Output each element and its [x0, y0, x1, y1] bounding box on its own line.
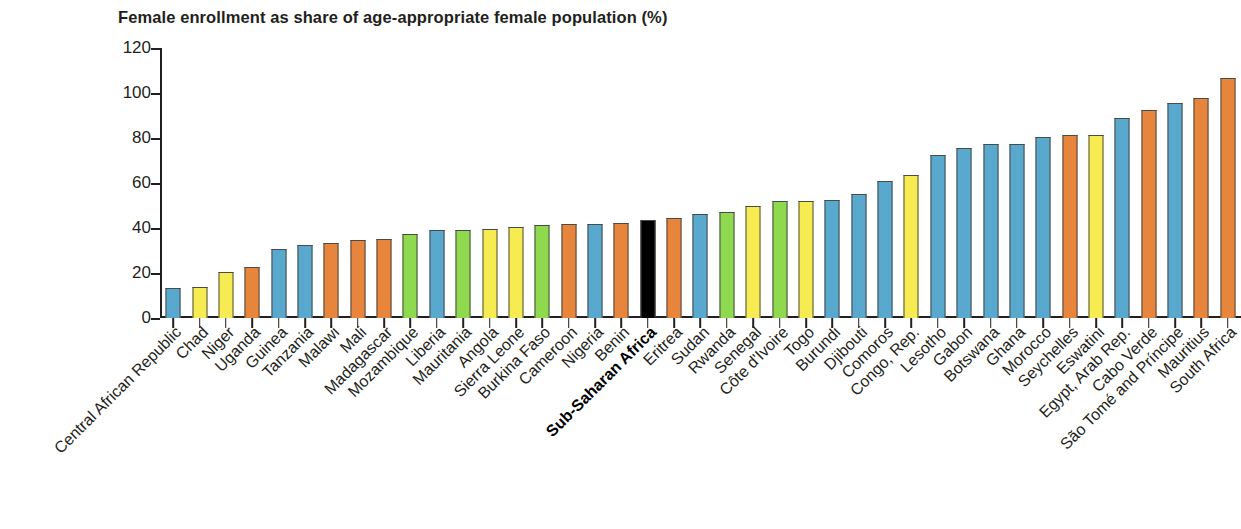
bar-slot — [345, 48, 371, 318]
bar-slot — [424, 48, 450, 318]
bar[interactable] — [825, 200, 840, 318]
bar-slot — [292, 48, 318, 318]
bar[interactable] — [957, 148, 972, 318]
bar-slot — [555, 48, 581, 318]
bar-slot — [529, 48, 555, 318]
y-axis-tick-label: 60 — [132, 173, 151, 193]
bar-slot — [186, 48, 212, 318]
bar-slot — [265, 48, 291, 318]
y-axis-tick — [151, 228, 160, 230]
bar[interactable] — [324, 243, 339, 318]
bar-slot — [213, 48, 239, 318]
bar[interactable] — [851, 194, 866, 318]
bar[interactable] — [746, 206, 761, 319]
bar[interactable] — [192, 287, 207, 319]
bar-slot — [951, 48, 977, 318]
bar-slot — [1004, 48, 1030, 318]
bar-slot — [1109, 48, 1135, 318]
y-axis-tick-label: 100 — [123, 83, 151, 103]
bar[interactable] — [245, 267, 260, 318]
bar-slot — [740, 48, 766, 318]
bar-slot — [1083, 48, 1109, 318]
bar[interactable] — [218, 272, 233, 318]
bar[interactable] — [614, 223, 629, 318]
y-axis-tick-label: 20 — [132, 263, 151, 283]
bar[interactable] — [640, 220, 655, 318]
y-axis-tick — [151, 273, 160, 275]
bar-slot — [503, 48, 529, 318]
bar-slot — [371, 48, 397, 318]
bar[interactable] — [798, 201, 813, 318]
bar[interactable] — [429, 230, 444, 318]
bar[interactable] — [535, 225, 550, 318]
y-axis-tick — [151, 318, 160, 320]
bar-slot — [925, 48, 951, 318]
x-axis-tick-label: Central African Republic — [52, 324, 185, 457]
y-axis-tick — [151, 138, 160, 140]
bar[interactable] — [377, 239, 392, 318]
bar-slot — [714, 48, 740, 318]
bar[interactable] — [166, 288, 181, 318]
bar-slot — [1030, 48, 1056, 318]
x-axis-labels: Central African RepublicChadNigerUgandaG… — [160, 320, 1241, 529]
bar-slot — [898, 48, 924, 318]
bar-slot — [1188, 48, 1214, 318]
bar[interactable] — [1141, 110, 1156, 318]
bar[interactable] — [1115, 118, 1130, 318]
bar-slot — [397, 48, 423, 318]
bar-slot — [318, 48, 344, 318]
bar[interactable] — [298, 245, 313, 318]
bar-slot — [608, 48, 634, 318]
bar-slot — [819, 48, 845, 318]
bar[interactable] — [878, 181, 893, 318]
bar[interactable] — [588, 224, 603, 319]
y-axis-tick — [151, 48, 160, 50]
chart-page: Female enrollment as share of age-approp… — [0, 0, 1241, 529]
bar[interactable] — [271, 249, 286, 318]
bar-slot — [450, 48, 476, 318]
bar-slot — [1056, 48, 1082, 318]
bar-slot — [846, 48, 872, 318]
bar[interactable] — [1036, 137, 1051, 318]
y-axis-tick-label: 0 — [142, 308, 151, 328]
bar[interactable] — [508, 227, 523, 318]
bar-slot — [1215, 48, 1241, 318]
bar[interactable] — [561, 224, 576, 318]
bar[interactable] — [1088, 135, 1103, 318]
bar[interactable] — [772, 201, 787, 318]
bar-slot — [661, 48, 687, 318]
bar[interactable] — [719, 212, 734, 318]
bar-slot — [476, 48, 502, 318]
bar[interactable] — [983, 144, 998, 318]
bar-slot — [1162, 48, 1188, 318]
bar-series — [160, 48, 1241, 318]
bar[interactable] — [930, 155, 945, 318]
bar[interactable] — [1009, 144, 1024, 318]
y-axis-tick-label: 120 — [123, 38, 151, 58]
plot-area — [160, 48, 1241, 318]
bar[interactable] — [904, 175, 919, 318]
bar-slot — [977, 48, 1003, 318]
bar[interactable] — [482, 229, 497, 318]
bar-slot — [766, 48, 792, 318]
bar-slot — [793, 48, 819, 318]
bar[interactable] — [693, 214, 708, 318]
bar-slot — [239, 48, 265, 318]
y-axis-tick-label: 80 — [132, 128, 151, 148]
bar[interactable] — [403, 234, 418, 318]
bar[interactable] — [1194, 98, 1209, 319]
bar-slot — [1136, 48, 1162, 318]
bar[interactable] — [1168, 103, 1183, 318]
bar[interactable] — [667, 218, 682, 318]
bar-slot — [582, 48, 608, 318]
y-axis-tick-label: 40 — [132, 218, 151, 238]
y-axis-labels: 020406080100120 — [107, 48, 151, 318]
bar[interactable] — [1062, 135, 1077, 318]
y-axis-tick — [151, 93, 160, 95]
bar[interactable] — [1220, 78, 1235, 318]
bar-slot — [687, 48, 713, 318]
bar[interactable] — [456, 230, 471, 318]
bar[interactable] — [350, 240, 365, 318]
bar-slot — [872, 48, 898, 318]
y-axis-tick — [151, 183, 160, 185]
